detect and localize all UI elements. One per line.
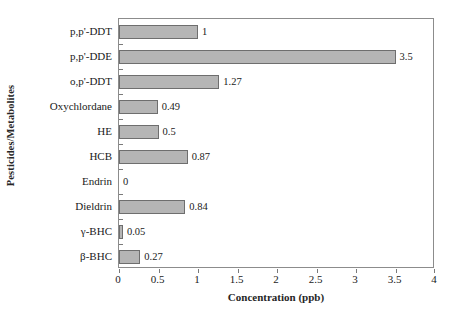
bar-9: [119, 225, 123, 239]
bar-chart-figure: Pesticides/Metabolites p,p'-DDTp,p'-DDEo…: [0, 0, 458, 312]
x-axis-tick-label-5: 2: [273, 274, 279, 285]
x-axis-tick-labels: 00.511.522.533.54: [118, 274, 434, 288]
x-axis-tick-label-2: 0.5: [151, 274, 165, 285]
category-label-9: γ-BHC: [81, 225, 112, 236]
x-axis-tick-label-9: 4: [431, 274, 437, 285]
bar-6: [119, 150, 188, 164]
category-label-4: Oxychlordane: [50, 100, 112, 111]
bar-value-label-3: 1.27: [223, 76, 241, 87]
bar-value-label-9: 0.05: [127, 226, 145, 237]
y-axis-tick-6: [119, 169, 123, 170]
bar-value-label-10: 0.27: [144, 251, 162, 262]
bar-3: [119, 75, 219, 89]
bar-1: [119, 25, 198, 39]
bar-5: [119, 125, 159, 139]
category-label-8: Dieldrin: [75, 200, 112, 211]
category-label-7: Endrin: [82, 175, 112, 186]
y-axis-title: Pesticides/Metabolites: [0, 0, 22, 270]
y-axis-tick-9: [119, 244, 123, 245]
y-axis-tick-1: [119, 44, 123, 45]
plot-area: 13.51.270.490.50.8700.840.050.27: [118, 18, 434, 268]
bar-value-label-6: 0.87: [192, 151, 210, 162]
bar-value-label-4: 0.49: [162, 101, 180, 112]
y-axis-category-labels: p,p'-DDTp,p'-DDEo,p'-DDTOxychlordaneHEHC…: [20, 18, 116, 268]
bar-value-label-7: 0: [123, 176, 128, 187]
y-axis-tick-7: [119, 194, 123, 195]
y-axis-tick-8: [119, 219, 123, 220]
bar-value-label-5: 0.5: [163, 126, 176, 137]
category-label-3: o,p'-DDT: [70, 75, 112, 86]
x-axis-tick-label-1: 0: [115, 274, 121, 285]
bar-8: [119, 200, 185, 214]
category-label-10: β-BHC: [80, 250, 112, 261]
category-label-2: p,p'-DDE: [70, 50, 112, 61]
x-axis-tick-label-7: 3: [352, 274, 358, 285]
category-label-6: HCB: [89, 150, 112, 161]
category-label-1: p,p'-DDT: [70, 25, 112, 36]
bar-2: [119, 50, 396, 64]
bar-value-label-1: 1: [202, 26, 207, 37]
x-axis-tick-label-8: 3.5: [388, 274, 402, 285]
bar-4: [119, 100, 158, 114]
category-label-5: HE: [97, 125, 112, 136]
y-axis-tick-5: [119, 144, 123, 145]
y-axis-tick-2: [119, 69, 123, 70]
x-axis-tick-label-3: 1: [194, 274, 200, 285]
y-axis-tick-3: [119, 94, 123, 95]
y-axis-tick-4: [119, 119, 123, 120]
bar-10: [119, 250, 140, 264]
bar-value-label-8: 0.84: [189, 201, 207, 212]
bar-value-label-2: 3.5: [400, 51, 413, 62]
y-axis-title-text: Pesticides/Metabolites: [6, 84, 17, 185]
x-axis-tick-label-6: 2.5: [309, 274, 323, 285]
x-axis-tick-label-4: 1.5: [230, 274, 244, 285]
x-axis-title: Concentration (ppb): [118, 291, 434, 303]
